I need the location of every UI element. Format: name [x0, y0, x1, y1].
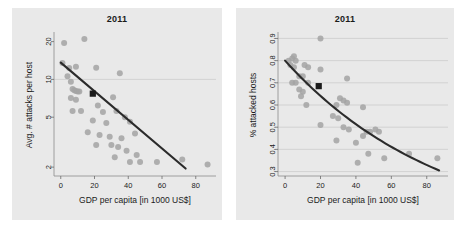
y-tick-label: 20 — [44, 37, 53, 45]
data-point — [76, 89, 82, 95]
highlight-marker — [316, 83, 322, 89]
data-point — [381, 155, 387, 161]
chart-panel-right: 2011 0204060800.30.40.50.60.70.80.9GDP p… — [236, 8, 454, 220]
data-point — [108, 142, 114, 148]
data-point — [68, 95, 74, 101]
data-point — [90, 118, 96, 124]
data-point — [434, 155, 440, 161]
x-tick-label: 0 — [283, 181, 287, 190]
data-point — [100, 109, 106, 115]
data-point — [65, 73, 71, 79]
data-point — [124, 148, 130, 154]
data-point — [117, 70, 123, 76]
x-tick-label: 80 — [423, 181, 431, 190]
data-point — [78, 108, 84, 114]
x-axis-title: GDP per capita [in 1000 US$] — [307, 195, 419, 205]
y-tick-label: 2 — [44, 165, 53, 169]
x-tick-label: 20 — [90, 181, 98, 190]
y-tick-label: 0.8 — [268, 55, 277, 65]
y-axis-title: % attacked hosts — [248, 73, 258, 138]
data-point — [85, 129, 91, 135]
y-axis-title: Avg. # attacks per host — [24, 61, 34, 148]
data-point — [355, 160, 361, 166]
data-point — [103, 120, 109, 126]
data-point — [333, 138, 339, 144]
data-point — [305, 64, 311, 70]
x-tick-label: 60 — [387, 181, 395, 190]
x-tick-label: 40 — [352, 181, 360, 190]
data-point — [335, 115, 341, 121]
data-point — [330, 113, 336, 119]
data-point — [293, 80, 299, 86]
data-point — [360, 133, 366, 139]
scatter-plot-left: 020406080251020GDP per capita [in 1000 U… — [12, 8, 222, 220]
data-point — [344, 75, 350, 81]
x-tick-label: 0 — [59, 181, 63, 190]
data-point — [61, 40, 67, 46]
x-tick-label: 60 — [158, 181, 166, 190]
data-point — [318, 35, 324, 41]
data-point — [298, 93, 304, 99]
data-point — [346, 126, 352, 132]
trend-line — [61, 63, 186, 169]
data-point — [303, 102, 309, 108]
data-point — [97, 132, 103, 138]
y-tick-label: 0.3 — [268, 166, 277, 176]
data-point — [68, 79, 74, 85]
y-tick-label: 5 — [44, 115, 53, 119]
x-tick-label: 80 — [192, 181, 200, 190]
scatter-plot-right: 0204060800.30.40.50.60.70.80.9GDP per ca… — [236, 8, 454, 220]
data-point — [81, 36, 87, 42]
data-point — [353, 140, 359, 146]
data-point — [107, 134, 113, 140]
data-point — [132, 131, 138, 137]
y-tick-label: 0.6 — [268, 100, 277, 110]
data-point — [179, 157, 185, 163]
data-point — [293, 58, 299, 64]
data-point — [127, 159, 133, 165]
data-point — [93, 142, 99, 148]
x-tick-label: 40 — [124, 181, 132, 190]
trend-curve — [285, 61, 439, 171]
data-point — [73, 64, 79, 70]
data-point — [115, 144, 121, 150]
data-point — [134, 152, 140, 158]
data-point — [154, 159, 160, 165]
data-point — [365, 151, 371, 157]
data-point — [95, 102, 101, 108]
chart-panel-left: 2011 020406080251020GDP per capita [in 1… — [12, 8, 222, 220]
data-point — [70, 108, 76, 114]
data-point — [318, 67, 324, 73]
data-point — [376, 129, 382, 135]
y-tick-label: 0.7 — [268, 78, 277, 88]
data-point — [318, 122, 324, 128]
data-point — [73, 97, 79, 103]
y-tick-label: 0.9 — [268, 33, 277, 43]
figure-container: 2011 020406080251020GDP per capita [in 1… — [0, 0, 464, 227]
highlight-marker — [90, 91, 96, 97]
data-point — [93, 65, 99, 71]
data-point — [360, 104, 366, 110]
x-axis-title: GDP per capita [in 1000 US$] — [79, 195, 191, 205]
data-point — [344, 100, 350, 106]
y-tick-label: 10 — [44, 75, 53, 83]
data-point — [341, 124, 347, 130]
data-point — [110, 94, 116, 100]
data-point — [205, 161, 211, 167]
y-tick-label: 0.4 — [268, 144, 277, 154]
data-point — [119, 135, 125, 141]
x-tick-label: 20 — [316, 181, 324, 190]
data-point — [112, 154, 118, 160]
data-point — [137, 159, 143, 165]
y-tick-label: 0.5 — [268, 122, 277, 132]
